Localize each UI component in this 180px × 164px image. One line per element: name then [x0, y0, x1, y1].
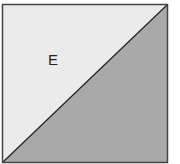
divided-square-figure	[0, 0, 180, 164]
diagram-canvas: E	[0, 0, 180, 164]
region-label-e: E	[48, 52, 58, 67]
